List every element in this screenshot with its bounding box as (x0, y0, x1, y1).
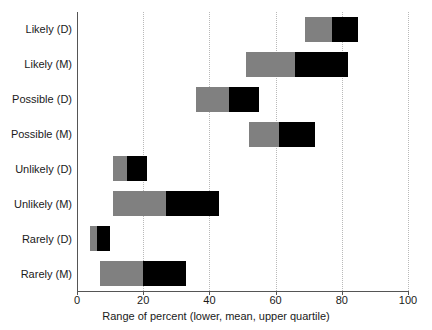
x-axis-line (77, 291, 408, 292)
y-axis-label-rarely-d: Rarely (D) (1, 233, 72, 245)
bar-unlikely-d (113, 156, 146, 181)
x-axis-title: Range of percent (lower, mean, upper qua… (0, 310, 432, 322)
y-axis-label-unlikely-m: Unlikely (M) (1, 198, 72, 210)
bar-possible-d (196, 87, 259, 112)
bar-segment-mean-to-upper (166, 191, 219, 216)
bar-segment-lower-to-mean (246, 52, 296, 77)
bar-segment-mean-to-upper (332, 17, 358, 42)
bar-segment-mean-to-upper (295, 52, 348, 77)
bar-segment-lower-to-mean (113, 191, 166, 216)
range-bar-chart: Likely (D)Likely (M)Possible (D)Possible… (0, 0, 432, 330)
bar-rarely-m (100, 261, 186, 286)
bar-segment-mean-to-upper (127, 156, 147, 181)
y-axis-label-possible-m: Possible (M) (1, 128, 72, 140)
y-axis-label-unlikely-d: Unlikely (D) (1, 163, 72, 175)
bars-layer (77, 12, 408, 291)
y-axis-label-likely-d: Likely (D) (1, 23, 72, 35)
bar-likely-m (246, 52, 349, 77)
bar-likely-d (305, 17, 358, 42)
y-axis-category-labels: Likely (D)Likely (M)Possible (D)Possible… (0, 12, 72, 291)
bar-possible-m (249, 122, 315, 147)
gridline-100 (408, 12, 410, 291)
y-axis-label-rarely-m: Rarely (M) (1, 268, 72, 280)
x-tick-label-40: 40 (203, 294, 215, 307)
bar-segment-lower-to-mean (305, 17, 331, 42)
x-tick-label-60: 60 (269, 294, 281, 307)
bar-segment-lower-to-mean (90, 226, 97, 251)
bar-segment-lower-to-mean (100, 261, 143, 286)
bar-segment-lower-to-mean (249, 122, 279, 147)
bar-segment-mean-to-upper (143, 261, 186, 286)
bar-segment-lower-to-mean (113, 156, 126, 181)
x-tick-label-80: 80 (336, 294, 348, 307)
bar-unlikely-m (113, 191, 219, 216)
x-tick-label-100: 100 (399, 294, 417, 307)
bar-rarely-d (90, 226, 110, 251)
bar-segment-mean-to-upper (279, 122, 315, 147)
bar-segment-mean-to-upper (97, 226, 110, 251)
y-axis-label-possible-d: Possible (D) (1, 93, 72, 105)
y-axis-label-likely-m: Likely (M) (1, 58, 72, 70)
x-tick-label-0: 0 (74, 294, 80, 307)
bar-segment-lower-to-mean (196, 87, 229, 112)
bar-segment-mean-to-upper (229, 87, 259, 112)
x-tick-label-20: 20 (137, 294, 149, 307)
